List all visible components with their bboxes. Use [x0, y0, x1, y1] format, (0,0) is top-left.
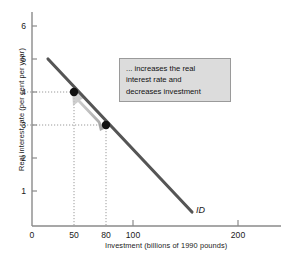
- annotation-callout: ... increases the real interest rate and…: [119, 58, 231, 102]
- curve-label-id: ID: [196, 205, 205, 215]
- y-tick-label-6: 6: [10, 21, 26, 31]
- annotation-line-1: ... increases the real: [126, 63, 225, 74]
- annotation-line-2: interest rate and: [126, 74, 225, 85]
- x-tick-label-0: 0: [20, 230, 44, 240]
- x-tick-label-100: 100: [121, 230, 145, 240]
- investment-demand-chart: 6 5 4 3 2 1 0 50 80 100 200 Real interes…: [0, 0, 283, 254]
- x-tick-label-80: 80: [94, 230, 118, 240]
- y-tick-label-1: 1: [10, 186, 26, 196]
- x-tick-label-50: 50: [62, 230, 86, 240]
- x-tick-label-200: 200: [226, 230, 250, 240]
- x-axis-title: Investment (billions of 1990 pounds): [105, 241, 227, 250]
- data-point-marker-a: [70, 88, 78, 96]
- chart-plot-area: [0, 0, 283, 254]
- y-axis-title: Real interest rate (per cent per year): [17, 35, 26, 185]
- annotation-line-3: decreases investment: [126, 86, 225, 97]
- data-point-marker-b: [102, 121, 110, 129]
